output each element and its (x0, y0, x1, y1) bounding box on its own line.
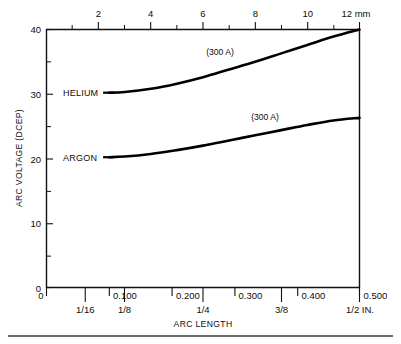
bottom-decimal-label-0.200: 0.200 (176, 290, 200, 301)
bottom-decimal-label-0.400: 0.400 (302, 290, 326, 301)
y-axis-labels: 40 30 20 10 0 (30, 24, 41, 294)
y-tick-label-40: 40 (30, 24, 41, 35)
argon-current-annotation: (300 A) (251, 112, 279, 122)
bottom-fraction-label-3-8: 3/8 (275, 304, 288, 315)
arc-voltage-chart-figure: ARC VOLTAGE (DCEP) (0, 0, 401, 344)
helium-current-annotation: (300 A) (206, 47, 234, 57)
bottom-fraction-label-1-4: 1/4 (196, 304, 209, 315)
bottom-axis-decimal-labels: 0 0.100 0.200 0.300 0.400 0.500 (38, 290, 387, 301)
top-tick-label-10: 10 (302, 8, 313, 19)
bottom-axis-fraction-labels: 1/16 1/8 1/4 3/8 1/2 IN. (76, 304, 374, 315)
argon-series-label-group: ARGON (63, 153, 113, 163)
y-axis-title-group: ARC VOLTAGE (DCEP) (14, 109, 24, 207)
y-tick-label-10: 10 (30, 218, 41, 229)
top-tick-label-2: 2 (96, 8, 101, 19)
top-axis-ticks (72, 22, 359, 29)
y-tick-label-20: 20 (30, 154, 41, 165)
top-tick-label-4: 4 (148, 8, 153, 19)
x-axis-title: ARC LENGTH (174, 319, 233, 329)
top-axis-labels: 2 4 6 8 10 12 mm (96, 8, 371, 19)
bottom-decimal-label-0.300: 0.300 (239, 290, 263, 301)
argon-series-label: ARGON (63, 153, 97, 163)
bottom-fraction-label-1-16: 1/16 (76, 304, 95, 315)
argon-curve-path (109, 118, 359, 157)
chart-canvas: ARC VOLTAGE (DCEP) (0, 0, 401, 344)
helium-series-label-group: HELIUM (63, 88, 113, 98)
helium-series-label: HELIUM (63, 88, 98, 98)
top-axis-unit-label: 12 mm (341, 8, 370, 19)
bottom-decimal-label-0: 0 (38, 290, 43, 301)
helium-curve-path (109, 30, 359, 93)
bottom-fraction-label-1-2: 1/2 IN. (346, 304, 374, 315)
bottom-fraction-label-1-8: 1/8 (118, 304, 131, 315)
top-tick-label-6: 6 (200, 8, 205, 19)
bottom-decimal-label-0.500: 0.500 (364, 290, 388, 301)
y-tick-label-30: 30 (30, 89, 41, 100)
y-axis-title: ARC VOLTAGE (DCEP) (14, 109, 24, 207)
top-tick-label-8: 8 (253, 8, 258, 19)
